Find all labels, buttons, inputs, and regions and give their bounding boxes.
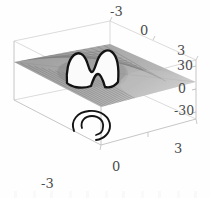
z-tick-minus30: -30	[174, 105, 194, 118]
x-tick-minus3: -3	[41, 177, 54, 190]
x-tick-zero: 0	[112, 160, 120, 173]
plot-3d-figure: -3 0 3 30 0 -30 3 0 -3	[0, 0, 211, 198]
floor-contour-rings	[73, 111, 110, 140]
x-axis-ticks	[100, 119, 197, 150]
z-tick-plus30: 30	[177, 60, 193, 73]
x-tick-plus3: 3	[174, 142, 182, 155]
z-tick-zero: 0	[178, 83, 186, 96]
y-tick-zero: 0	[140, 24, 148, 37]
plot-canvas	[0, 0, 211, 198]
y-tick-plus3: 3	[177, 44, 185, 57]
compression-noise-strip	[0, 191, 211, 198]
y-tick-minus3: -3	[110, 5, 123, 18]
